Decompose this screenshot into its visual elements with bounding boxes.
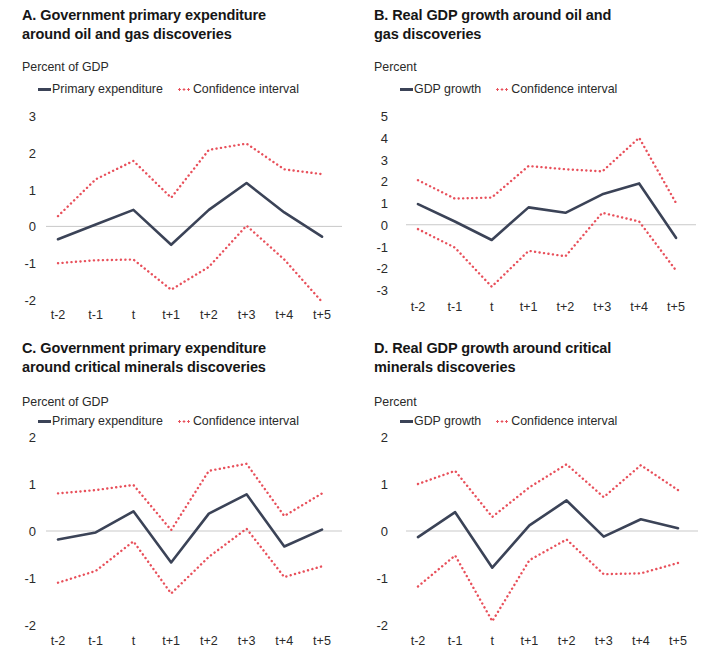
panel-d: D. Real GDP growth around critical miner… xyxy=(352,333,704,666)
y-tick-label: 3 xyxy=(10,109,36,124)
y-tick-label: -3 xyxy=(362,283,388,298)
panel-c-legend: Primary expenditure Confidence interval xyxy=(38,414,299,428)
panel-a-title: A. Government primary expenditure around… xyxy=(22,6,332,43)
panel-c-title: C. Government primary expenditure around… xyxy=(22,339,332,376)
panel-d-legend-ci-label: Confidence interval xyxy=(511,414,617,428)
x-tick-label: t+4 xyxy=(632,634,650,648)
y-tick-label: 0 xyxy=(10,219,36,234)
panel-d-title: D. Real GDP growth around critical miner… xyxy=(374,339,684,376)
series-line xyxy=(418,500,678,567)
panel-a-legend-series-label: Primary expenditure xyxy=(52,82,163,96)
y-tick-label: 1 xyxy=(10,477,36,492)
panel-d-legend-ci: Confidence interval xyxy=(495,414,617,428)
x-tick-label: t+1 xyxy=(520,300,538,314)
x-tick-label: t-2 xyxy=(411,300,426,314)
panel-b-legend-series-label: GDP growth xyxy=(414,82,481,96)
y-tick-label: 2 xyxy=(362,430,388,445)
panel-c-legend-series: Primary expenditure xyxy=(38,414,163,428)
x-tick-label: t+3 xyxy=(238,634,256,648)
dotted-line-swatch-icon xyxy=(495,88,509,91)
panel-d-title-line1: D. Real GDP growth around critical xyxy=(374,340,611,356)
y-tick-label: 5 xyxy=(362,109,388,124)
panel-c-title-line1: C. Government primary expenditure xyxy=(22,340,266,356)
y-tick-label: -2 xyxy=(10,293,36,308)
y-tick-label: -1 xyxy=(10,571,36,586)
panel-b-legend-ci: Confidence interval xyxy=(495,82,617,96)
y-tick-label: 1 xyxy=(10,182,36,197)
y-tick-label: -1 xyxy=(362,571,388,586)
x-tick-label: t-1 xyxy=(88,634,103,648)
y-tick-label: 1 xyxy=(362,477,388,492)
panel-c-svg xyxy=(24,433,346,629)
panel-c: C. Government primary expenditure around… xyxy=(0,333,352,666)
x-tick-label: t+1 xyxy=(162,634,180,648)
x-tick-label: t+5 xyxy=(313,634,331,648)
solid-line-swatch-icon xyxy=(38,88,51,91)
x-tick-label: t-2 xyxy=(51,308,66,322)
x-tick-label: t+2 xyxy=(200,308,218,322)
panel-a-legend-series: Primary expenditure xyxy=(38,82,163,96)
panel-a-legend-ci-label: Confidence interval xyxy=(193,82,299,96)
solid-line-swatch-icon xyxy=(400,88,413,91)
panel-b-title: B. Real GDP growth around oil and gas di… xyxy=(374,6,684,43)
panel-d-legend-series-label: GDP growth xyxy=(414,414,481,428)
panel-a: A. Government primary expenditure around… xyxy=(0,0,352,333)
y-tick-label: 0 xyxy=(362,217,388,232)
y-tick-label: 3 xyxy=(362,152,388,167)
series-line xyxy=(418,138,676,203)
dotted-line-swatch-icon xyxy=(495,420,509,423)
panel-b-title-line2: gas discoveries xyxy=(374,26,481,42)
x-tick-label: t+1 xyxy=(520,634,538,648)
panel-c-legend-ci: Confidence interval xyxy=(177,414,299,428)
series-line xyxy=(418,213,676,287)
panel-d-axis-unit: Percent xyxy=(374,395,417,409)
panel-a-title-line2: around oil and gas discoveries xyxy=(22,26,232,42)
panel-c-legend-series-label: Primary expenditure xyxy=(52,414,163,428)
panel-a-plot: 3210-1-2t-2t-1tt+1t+2t+3t+4t+5 xyxy=(24,112,346,330)
panel-b-axis-unit: Percent xyxy=(374,60,417,74)
y-tick-label: -1 xyxy=(10,256,36,271)
panel-b-title-line1: B. Real GDP growth around oil and xyxy=(374,7,611,23)
x-tick-label: t-2 xyxy=(51,634,66,648)
series-line xyxy=(418,464,678,517)
panel-b-legend: GDP growth Confidence interval xyxy=(400,82,617,96)
panel-a-title-line1: A. Government primary expenditure xyxy=(22,7,266,23)
panel-b-svg xyxy=(376,112,698,294)
y-tick-label: 1 xyxy=(362,196,388,211)
x-tick-label: t+3 xyxy=(595,634,613,648)
panel-d-svg xyxy=(376,433,698,629)
panel-c-axis-unit: Percent of GDP xyxy=(22,395,109,409)
panel-d-legend-series: GDP growth xyxy=(400,414,481,428)
x-tick-label: t+4 xyxy=(275,634,293,648)
x-tick-label: t-1 xyxy=(448,634,463,648)
panel-d-legend: GDP growth Confidence interval xyxy=(400,414,617,428)
panel-a-legend: Primary expenditure Confidence interval xyxy=(38,82,299,96)
panel-b-legend-ci-label: Confidence interval xyxy=(511,82,617,96)
x-tick-label: t xyxy=(132,634,136,648)
panel-a-svg xyxy=(24,112,346,304)
y-tick-label: 0 xyxy=(10,524,36,539)
y-tick-label: -2 xyxy=(362,261,388,276)
panel-c-title-line2: around critical minerals discoveries xyxy=(22,359,266,375)
panel-b-legend-series: GDP growth xyxy=(400,82,481,96)
series-line xyxy=(418,539,678,621)
series-line xyxy=(58,464,322,530)
x-tick-label: t-1 xyxy=(88,308,103,322)
y-tick-label: 2 xyxy=(10,145,36,160)
x-tick-label: t+5 xyxy=(669,634,687,648)
panel-b-plot: 543210-1-2-3t-2t-1tt+1t+2t+3t+4t+5 xyxy=(376,112,698,320)
series-line xyxy=(58,226,322,302)
y-tick-label: -2 xyxy=(362,618,388,633)
series-line xyxy=(58,183,322,245)
dotted-line-swatch-icon xyxy=(177,420,191,423)
x-tick-label: t+5 xyxy=(667,300,685,314)
x-tick-label: t+2 xyxy=(558,634,576,648)
solid-line-swatch-icon xyxy=(400,420,413,423)
x-tick-label: t xyxy=(490,300,494,314)
y-tick-label: -1 xyxy=(362,239,388,254)
solid-line-swatch-icon xyxy=(38,420,51,423)
x-tick-label: t-1 xyxy=(447,300,462,314)
x-tick-label: t+2 xyxy=(200,634,218,648)
x-tick-label: t+5 xyxy=(313,308,331,322)
figure-panel-grid: A. Government primary expenditure around… xyxy=(0,0,704,666)
